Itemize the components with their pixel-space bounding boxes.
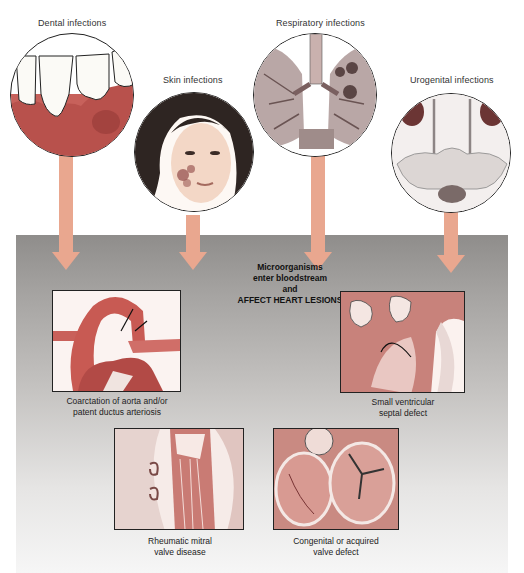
caption-vsd: Small ventricular septal defect: [350, 397, 456, 419]
pelvis-urinary-icon: [392, 94, 511, 213]
caption-coarctation: Coarctation of aorta and/or patent ductu…: [44, 396, 190, 418]
respiratory-infection-illustration: [253, 33, 377, 157]
central-message-line4: AFFECT HEART LESIONS: [220, 295, 360, 306]
face-icon: [135, 93, 254, 212]
heart-valves-icon: [274, 429, 399, 530]
label-respiratory-infections: Respiratory infections: [276, 18, 365, 28]
central-message-line1: Microorganisms: [220, 262, 360, 273]
label-dental-infections: Dental infections: [38, 18, 106, 28]
aorta-heart-icon: [53, 291, 181, 392]
label-skin-infections: Skin infections: [163, 75, 223, 85]
teeth-gums-icon: [11, 34, 134, 157]
skin-infection-illustration: [134, 92, 254, 212]
ventricle-heart-icon: [341, 292, 465, 393]
caption-congenital: Congenital or acquired valve defect: [266, 536, 406, 558]
coarctation-aorta-illustration: [52, 290, 181, 392]
central-message-line3: and: [220, 284, 360, 295]
lungs-icon: [254, 34, 377, 157]
central-message-line2: enter bloodstream: [220, 273, 360, 284]
ventricular-septal-defect-illustration: [340, 291, 465, 393]
dental-infection-illustration: [10, 33, 134, 157]
label-urogenital-infections: Urogenital infections: [410, 75, 494, 85]
urogenital-infection-illustration: [391, 93, 511, 213]
caption-rheumatic: Rheumatic mitral valve disease: [120, 536, 240, 558]
congenital-valve-defect-illustration: [273, 428, 399, 530]
mitral-valve-icon: [115, 429, 244, 530]
rheumatic-mitral-valve-illustration: [114, 428, 244, 530]
central-message: Microorganisms enter bloodstream and AFF…: [220, 262, 360, 306]
